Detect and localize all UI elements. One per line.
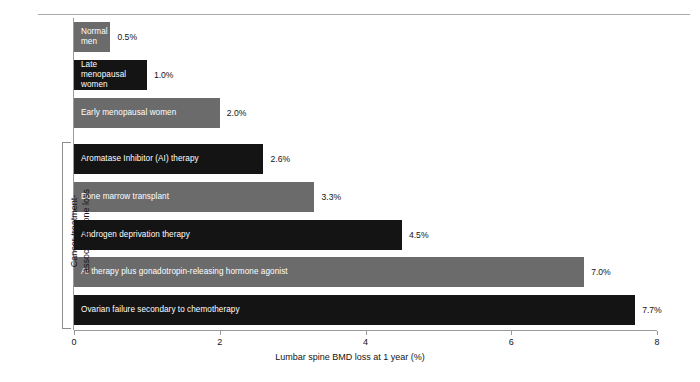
bar-row: Early menopausal women2.0%: [74, 98, 657, 128]
bar-row: AI therapy plus gonadotropin-releasing h…: [74, 257, 657, 287]
bar-row: Late menopausal women1.0%: [74, 60, 657, 90]
bar-row: Normal men0.5%: [74, 22, 657, 52]
bar[interactable]: Ovarian failure secondary to chemotherap…: [74, 295, 635, 325]
bar-category-label: Aromatase Inhibitor (AI) therapy: [81, 144, 260, 174]
bar-value-label: 7.7%: [642, 295, 662, 325]
bar-value-label: 7.0%: [591, 257, 611, 287]
x-axis-tick-label: 4: [363, 337, 368, 347]
bar[interactable]: Androgen deprivation therapy: [74, 220, 402, 250]
category-group-label: Cancer treatment- associated bone loss: [68, 131, 92, 331]
x-axis-tick-label: 6: [509, 337, 514, 347]
bar-row: Androgen deprivation therapy4.5%: [74, 220, 657, 250]
bar-category-label: Late menopausal women: [81, 60, 144, 90]
x-axis-tick: [220, 331, 221, 335]
bar-category-label: Androgen deprivation therapy: [81, 220, 399, 250]
x-axis-tick-label: 8: [654, 337, 659, 347]
bar-value-label: 2.6%: [270, 144, 290, 174]
x-axis-tick: [511, 331, 512, 335]
x-axis-title: Lumbar spine BMD loss at 1 year (%): [0, 352, 700, 362]
bar-category-label: AI therapy plus gonadotropin-releasing h…: [81, 257, 581, 287]
bar-row: Bone marrow transplant3.3%: [74, 182, 657, 212]
category-group-bracket: Cancer treatment- associated bone loss: [62, 142, 71, 329]
bar-chart-figure: Normal men0.5%Late menopausal women1.0%E…: [0, 0, 700, 382]
bar-category-label: Ovarian failure secondary to chemotherap…: [81, 295, 632, 325]
bar-value-label: 4.5%: [409, 220, 429, 250]
x-axis-tick: [366, 331, 367, 335]
top-divider-rule: [38, 14, 690, 15]
x-axis-tick: [657, 331, 658, 335]
bar-row: Aromatase Inhibitor (AI) therapy2.6%: [74, 144, 657, 174]
x-axis-tick-label: 0: [71, 337, 76, 347]
bar-category-label: Normal men: [81, 22, 107, 52]
bar-value-label: 3.3%: [321, 182, 341, 212]
bar-row: Ovarian failure secondary to chemotherap…: [74, 295, 657, 325]
plot-area: Normal men0.5%Late menopausal women1.0%E…: [74, 18, 657, 330]
bar-value-label: 1.0%: [154, 60, 174, 90]
bar[interactable]: Aromatase Inhibitor (AI) therapy: [74, 144, 263, 174]
bar-category-label: Bone marrow transplant: [81, 182, 311, 212]
bar[interactable]: Early menopausal women: [74, 98, 220, 128]
bar[interactable]: Late menopausal women: [74, 60, 147, 90]
bar[interactable]: Normal men: [74, 22, 110, 52]
bar-category-label: Early menopausal women: [81, 98, 217, 128]
x-axis-tick-label: 2: [217, 337, 222, 347]
bar-value-label: 2.0%: [227, 98, 247, 128]
bar[interactable]: Bone marrow transplant: [74, 182, 314, 212]
x-axis-tick: [74, 331, 75, 335]
bar[interactable]: AI therapy plus gonadotropin-releasing h…: [74, 257, 584, 287]
bar-value-label: 0.5%: [117, 22, 137, 52]
